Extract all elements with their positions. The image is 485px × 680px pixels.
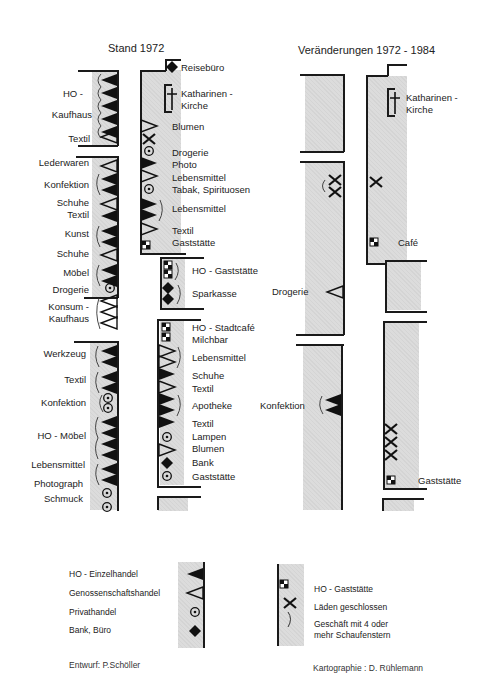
legend-bracket-icon xyxy=(288,612,291,627)
legend-label-schaufenster-2: mehr Schaufenstern xyxy=(314,630,391,641)
legend-genossenschaft-icon xyxy=(187,587,203,599)
legend-label-ho-gaststaette: HO - Gaststätte xyxy=(314,584,373,595)
legend-label-privathandel: Privathandel xyxy=(69,607,116,618)
legend-label-bank: Bank, Büro xyxy=(69,625,111,636)
legend-label-schaufenster-1: Geschäft mit 4 oder xyxy=(314,619,388,630)
legend-bank-icon xyxy=(189,625,201,637)
legend-label-laeden-geschlossen: Läden geschlossen xyxy=(314,602,387,613)
legend-closed-icon xyxy=(284,598,296,608)
legend-gaststaette-icon xyxy=(280,580,288,588)
legend-ho-einzelhandel-icon xyxy=(187,568,203,580)
credit-cartography: Kartographie : D. Rühlemann xyxy=(313,663,423,673)
legend-label-genossenschaftshandel: Genossenschaftshandel xyxy=(69,588,160,599)
legend-label-ho-einzelhandel: HO - Einzelhandel xyxy=(69,569,138,580)
credit-design: Entwurf: P.Schöller xyxy=(69,660,140,670)
legend-privathandel-icon xyxy=(191,608,200,617)
